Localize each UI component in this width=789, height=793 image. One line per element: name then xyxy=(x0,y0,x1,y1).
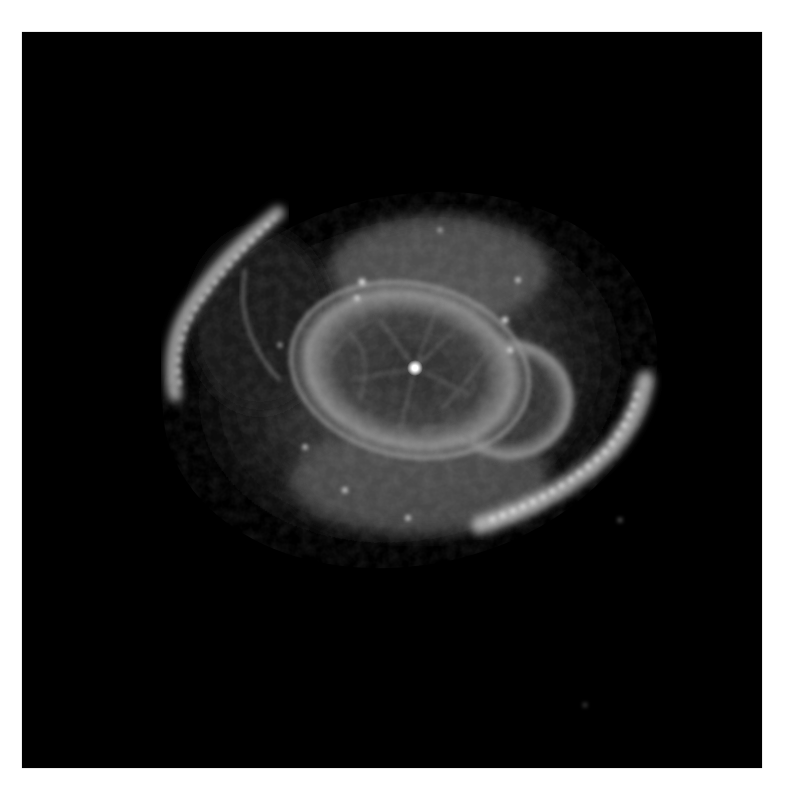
nebula-image: Grayscale astronomical image of a planet… xyxy=(22,32,762,768)
central-star xyxy=(412,365,418,371)
nebula-graphic xyxy=(22,32,762,768)
